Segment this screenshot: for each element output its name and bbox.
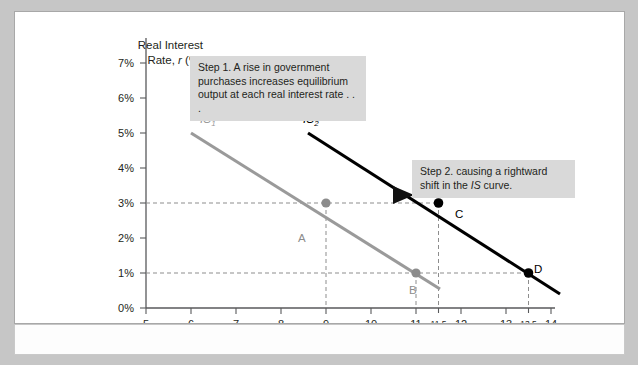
dashed-guide-lines xyxy=(146,203,529,308)
annotation-step2-line2-post: curve. xyxy=(481,179,513,191)
y-tick-label-1: 1% xyxy=(100,267,134,279)
annotation-step1-line3: output at each real interest rate . . . xyxy=(198,88,355,114)
point-label-a: A xyxy=(298,232,306,244)
y-tick-label-7: 7% xyxy=(100,57,134,69)
point-c-marker xyxy=(434,198,444,208)
x-tick-label-7: 7 xyxy=(233,318,239,324)
shift-arrow-icon xyxy=(321,186,414,204)
y-tick-label-5: 5% xyxy=(100,127,134,139)
point-b-marker xyxy=(411,268,420,277)
annotation-step2-line2-pre: shift in the xyxy=(420,179,471,191)
y-tick-label-4: 4% xyxy=(100,162,134,174)
annotation-step2-line2-em: IS xyxy=(471,179,481,191)
point-label-b: B xyxy=(409,284,417,296)
x-tick-label-10: 10 xyxy=(365,318,377,324)
y-tick-label-6: 6% xyxy=(100,92,134,104)
x-tick-label-13-5: 13.5 xyxy=(520,319,537,324)
curve-is1 xyxy=(191,133,440,289)
x-tick-marks xyxy=(146,308,551,314)
x-tick-label-14: 14 xyxy=(545,318,557,324)
annotation-step1-line2: purchases increases equilibrium xyxy=(198,75,348,87)
annotation-step2-line1: Step 2. causing a rightward xyxy=(420,165,547,177)
x-tick-label-13: 13 xyxy=(500,318,512,324)
y-tick-label-2: 2% xyxy=(100,232,134,244)
point-d-marker xyxy=(524,268,534,278)
x-tick-label-12: 12 xyxy=(455,318,467,324)
x-tick-label-5: 5 xyxy=(143,318,149,324)
figure-frame: THE IS CURVE xyxy=(0,0,638,365)
x-tick-label-8: 8 xyxy=(278,318,284,324)
point-label-d: D xyxy=(534,263,542,275)
y-tick-label-3: 3% xyxy=(100,197,134,209)
figure-panel: THE IS CURVE xyxy=(14,11,625,324)
x-tick-label-11-5: 11.5 xyxy=(431,319,447,324)
curve-is2 xyxy=(308,133,560,294)
page-bottom-strip xyxy=(14,325,625,355)
point-label-c: C xyxy=(455,208,463,220)
annotation-step1-line1: Step 1. A rise in government xyxy=(198,61,329,73)
x-tick-label-11: 11 xyxy=(410,318,421,324)
y-tick-label-0: 0% xyxy=(100,302,134,314)
x-tick-label-6: 6 xyxy=(188,318,194,324)
x-tick-label-9: 9 xyxy=(323,318,329,324)
annotation-step1: Step 1. A rise in government purchases i… xyxy=(190,56,366,121)
point-a-marker xyxy=(321,198,330,207)
annotation-step2: Step 2. causing a rightward shift in the… xyxy=(412,160,575,198)
y-tick-marks xyxy=(140,63,146,308)
plot-area: Real InterestRate, r (%) Aggregate Outpu… xyxy=(15,12,625,324)
